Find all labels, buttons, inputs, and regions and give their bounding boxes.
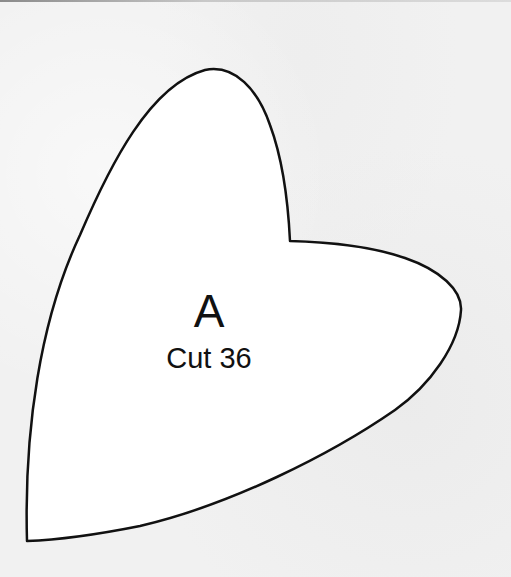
piece-letter-label: A bbox=[159, 288, 259, 334]
cut-count-label: Cut 36 bbox=[139, 342, 279, 374]
